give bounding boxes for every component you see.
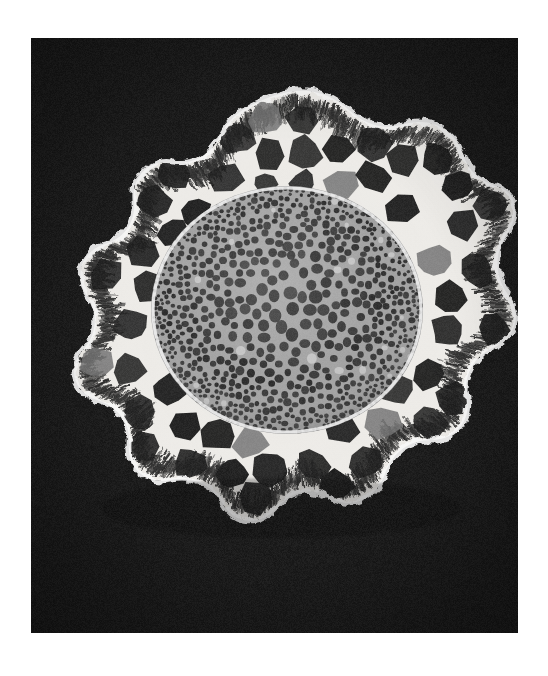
page-root bbox=[0, 0, 548, 676]
specimen-container bbox=[31, 38, 518, 633]
micrograph-plate bbox=[31, 38, 518, 633]
specimen-shadow bbox=[101, 478, 461, 538]
sem-micrograph-image bbox=[31, 38, 518, 633]
